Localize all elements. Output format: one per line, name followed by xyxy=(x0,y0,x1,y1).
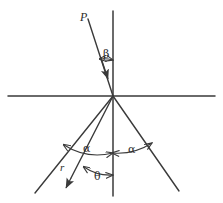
incident-ray-arrowhead xyxy=(101,58,108,79)
beta-angle-label: β xyxy=(103,48,109,61)
alpha-left-angle-label: α xyxy=(83,142,91,155)
lower-right-ray-line xyxy=(113,96,179,191)
incident-ray-label: P xyxy=(79,10,88,24)
refracted-ray-label: r xyxy=(60,161,65,173)
figure-container: P β α α r θ xyxy=(0,0,223,203)
alpha-right-angle-label: α xyxy=(128,143,136,156)
theta-angle-label: θ xyxy=(94,170,101,183)
refracted-ray-arrowhead xyxy=(66,178,71,188)
ray-diagram: P β α α r θ xyxy=(0,0,223,203)
refracted-ray-line xyxy=(71,96,113,178)
lower-left-ray-line xyxy=(35,96,113,193)
